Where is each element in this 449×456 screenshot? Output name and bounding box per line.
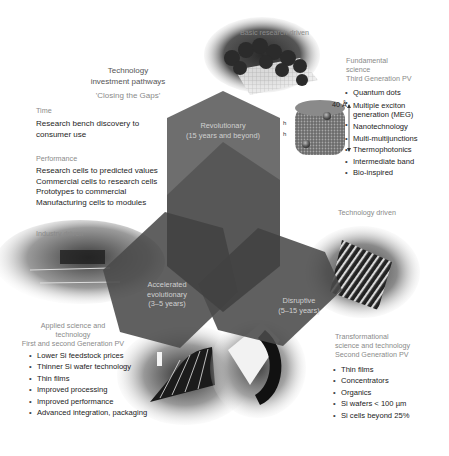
revolutionary-title: Revolutionary (168, 121, 278, 131)
technology-driven-label: Technology driven (338, 208, 396, 217)
list-item: Multi-multijunctions (344, 133, 448, 144)
performance-line: Research cells to predicted values (36, 166, 176, 177)
list-item: Nanotechnology (344, 119, 448, 132)
revolutionary-duration: (15 years and beyond) (168, 131, 278, 141)
list-item: Thin films (28, 373, 168, 384)
performance-heading: Performance (36, 154, 176, 163)
second-gen-heading-line-2: science and technology (335, 341, 447, 350)
svg-text:h: h (283, 120, 286, 126)
performance-line: Manufacturing cells to modules (36, 198, 176, 209)
industry-driven-label: Industry driven (36, 229, 83, 238)
first-second-gen-heading-line-1: Applied science and (8, 321, 138, 330)
list-item: Bio-inspired (344, 167, 448, 178)
time-section: Time Research bench discovery to consume… (36, 106, 176, 140)
list-item: Multiple exciton (344, 98, 448, 110)
list-item: Si wafers < 100 µm (332, 398, 444, 409)
time-heading: Time (36, 106, 176, 115)
subtitle: 'Closing the Gaps' (78, 91, 178, 102)
revolutionary-label: Revolutionary (15 years and beyond) (168, 121, 278, 140)
list-item: Concentrators (332, 375, 444, 386)
accelerated-title-line-2: evolutionary (128, 290, 206, 300)
list-item: Organics (332, 387, 444, 398)
list-item: Thin films (332, 364, 444, 375)
list-item: Improved processing (28, 384, 168, 395)
time-text-line-1: Research bench discovery to (36, 119, 176, 130)
first-second-gen-heading: Applied science and technology First and… (8, 321, 138, 349)
performance-line: Prototypes to commercial (36, 187, 176, 198)
performance-line: Commercial cells to research cells (36, 177, 176, 188)
performance-section: Performance Research cells to predicted … (36, 154, 176, 208)
second-gen-list: Thin films Concentrators Organics Si waf… (332, 364, 444, 421)
third-gen-heading-line-3: Third Generation PV (346, 74, 446, 83)
first-second-gen-heading-line-3: First and second Generation PV (8, 339, 138, 348)
accelerated-label: Accelerated evolutionary (3–5 years) (128, 280, 206, 309)
third-gen-heading: Fundamental science Third Generation PV (346, 56, 446, 84)
accelerated-duration: (3–5 years) (128, 299, 206, 309)
list-item: generation (MEG) (344, 110, 448, 119)
list-item: Lower Si feedstock prices (28, 350, 168, 361)
time-text-line-2: consumer use (36, 130, 176, 141)
scale-label: 40 Å (332, 100, 347, 109)
disruptive-title: Disruptive (264, 296, 334, 306)
list-item: Thinner Si wafer technology (28, 361, 168, 372)
disruptive-label: Disruptive (5–15 years) (264, 296, 334, 315)
first-second-gen-list: Lower Si feedstock prices Thinner Si waf… (28, 350, 168, 418)
list-item: Advanced integration, packaging (28, 407, 168, 418)
list-item: Improved performance (28, 396, 168, 407)
list-item: Thermophotonics (344, 144, 448, 155)
second-gen-heading-line-1: Transformational (335, 332, 447, 341)
list-item: Si cells beyond 25% (332, 410, 444, 421)
svg-text:h: h (283, 131, 286, 137)
third-gen-list: Quantum dots Multiple exciton generation… (344, 87, 448, 178)
third-gen-heading-line-1: Fundamental (346, 56, 446, 65)
title-line-1: Technology (78, 66, 178, 77)
title-line-2: investment pathways (78, 77, 178, 88)
first-second-gen-heading-line-2: technology (8, 330, 138, 339)
second-gen-heading-line-3: Second Generation PV (335, 350, 447, 359)
list-item: Intermediate band (344, 156, 448, 167)
title-block: Technology investment pathways 'Closing … (78, 66, 178, 102)
list-item: Quantum dots (344, 87, 448, 98)
disruptive-duration: (5–15 years) (264, 306, 334, 316)
basic-research-label: Basic research driven (240, 28, 309, 37)
accelerated-title-line-1: Accelerated (128, 280, 206, 290)
third-gen-heading-line-2: science (346, 65, 446, 74)
second-gen-heading: Transformational science and technology … (335, 332, 447, 360)
